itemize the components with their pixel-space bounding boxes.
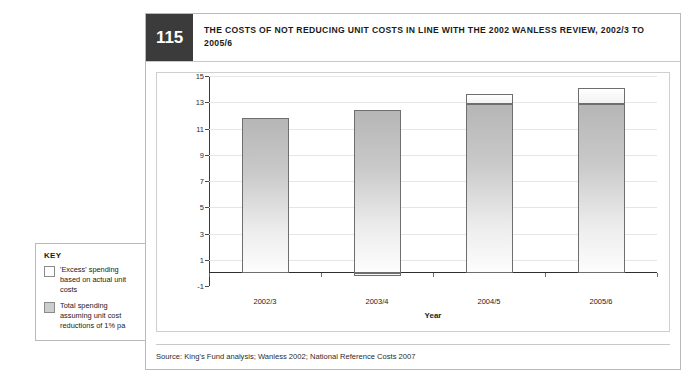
x-tick-label: 2002/3 bbox=[254, 297, 277, 306]
y-tick-label: 3 bbox=[200, 229, 204, 238]
y-tick-label: 1 bbox=[200, 255, 204, 264]
key-swatch-excess-icon bbox=[44, 266, 55, 277]
y-tick-mark bbox=[205, 102, 209, 103]
x-tick-label: 2003/4 bbox=[366, 297, 389, 306]
chart-key-box: KEY 'Excess' spending based on actual un… bbox=[35, 243, 146, 341]
key-item-total: Total spending assuming unit cost reduct… bbox=[44, 301, 139, 331]
x-tick-label: 2005/6 bbox=[590, 297, 613, 306]
x-tick-label: 2004/5 bbox=[478, 297, 501, 306]
key-title: KEY bbox=[44, 251, 139, 260]
bar-group[interactable] bbox=[354, 76, 401, 286]
x-axis-title: Year bbox=[209, 311, 657, 320]
key-label-excess: 'Excess' spending based on actual unit c… bbox=[60, 265, 139, 295]
y-tick-label: -1 bbox=[197, 282, 204, 291]
x-tick-mark bbox=[209, 273, 210, 277]
x-tick-mark bbox=[433, 273, 434, 277]
x-tick-mark bbox=[545, 273, 546, 277]
y-tick-mark bbox=[205, 234, 209, 235]
figure-number-badge: 115 bbox=[146, 14, 193, 61]
y-tick-mark bbox=[205, 207, 209, 208]
x-tick-mark bbox=[321, 273, 322, 277]
bar-segment-total[interactable] bbox=[466, 104, 513, 273]
y-tick-label: 13 bbox=[196, 98, 204, 107]
figure-source: Source: King's Fund analysis; Wanless 20… bbox=[156, 344, 670, 361]
bar-segment-total[interactable] bbox=[578, 104, 625, 273]
bar-segment-total[interactable] bbox=[354, 110, 401, 273]
plot-area: -113579111315 2002/32003/42004/52005/6 bbox=[209, 76, 657, 286]
bar-segment-excess[interactable] bbox=[354, 273, 401, 276]
y-tick-label: 5 bbox=[200, 203, 204, 212]
y-tick-label: 11 bbox=[196, 124, 204, 133]
bar-segment-excess[interactable] bbox=[578, 88, 625, 104]
key-item-excess: 'Excess' spending based on actual unit c… bbox=[44, 265, 139, 295]
y-tick-label: 15 bbox=[196, 72, 204, 81]
y-tick-label: 9 bbox=[200, 150, 204, 159]
bar-segment-total[interactable] bbox=[242, 118, 289, 273]
y-tick-mark bbox=[205, 76, 209, 77]
key-label-total: Total spending assuming unit cost reduct… bbox=[60, 301, 139, 331]
y-tick-mark bbox=[205, 286, 209, 287]
bar-segment-excess[interactable] bbox=[466, 94, 513, 104]
y-tick-mark bbox=[205, 155, 209, 156]
x-tick-mark bbox=[657, 273, 658, 277]
bar-group[interactable] bbox=[578, 76, 625, 286]
figure-title: THE COSTS OF NOT REDUCING UNIT COSTS IN … bbox=[204, 24, 672, 50]
plot-frame: -113579111315 2002/32003/42004/52005/6 Y… bbox=[156, 72, 670, 332]
figure-panel: 115 THE COSTS OF NOT REDUCING UNIT COSTS… bbox=[145, 13, 681, 370]
bar-group[interactable] bbox=[466, 76, 513, 286]
figure-header: 115 THE COSTS OF NOT REDUCING UNIT COSTS… bbox=[146, 14, 680, 62]
key-swatch-total-icon bbox=[44, 302, 55, 313]
y-tick-mark bbox=[205, 260, 209, 261]
bar-group[interactable] bbox=[242, 76, 289, 286]
y-tick-mark bbox=[205, 181, 209, 182]
y-tick-label: 7 bbox=[200, 177, 204, 186]
y-tick-mark bbox=[205, 129, 209, 130]
